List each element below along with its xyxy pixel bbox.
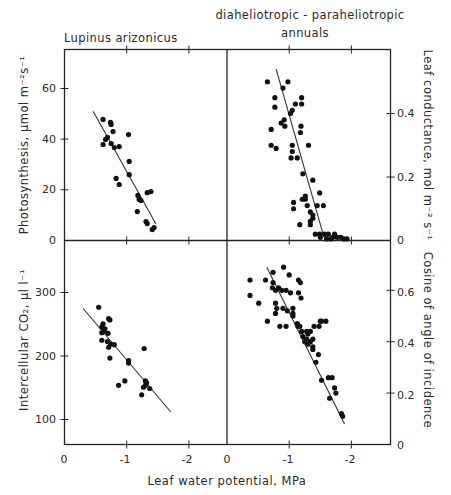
data-point (126, 361, 131, 366)
data-point (247, 293, 252, 298)
data-point (311, 324, 316, 329)
data-point (107, 355, 112, 360)
y-tick-br-0.4: 0.4 (397, 337, 415, 350)
data-point (141, 385, 146, 390)
y-tick-tl-0: 0 (49, 234, 56, 247)
data-point (148, 189, 153, 194)
x-tick-left-2: -2 (182, 453, 193, 466)
data-point (310, 178, 315, 183)
data-point (117, 182, 122, 187)
data-point (263, 277, 268, 282)
data-point (290, 313, 295, 318)
data-point (317, 190, 322, 195)
y-tick-br-0.2: 0.2 (397, 389, 415, 402)
data-point (310, 337, 315, 342)
data-point (107, 317, 112, 322)
data-point (340, 414, 345, 419)
y-tick-tr-0.2: 0.2 (397, 171, 415, 184)
data-point (265, 319, 270, 324)
data-point (282, 117, 287, 122)
data-point (272, 105, 277, 110)
data-point (127, 172, 132, 177)
data-point (274, 306, 279, 311)
data-point (298, 280, 303, 285)
data-point (112, 342, 117, 347)
data-point (316, 352, 321, 357)
data-point (281, 265, 286, 270)
data-point (290, 306, 295, 311)
panel-intercellular-co2 (83, 305, 171, 412)
x-tick-right-1: -1 (283, 453, 294, 466)
data-point (332, 385, 337, 390)
x-tick-labels: 0 -1 -2 0 -1 -2 (61, 453, 356, 466)
data-point (99, 338, 104, 343)
data-point (333, 391, 338, 396)
data-point (308, 222, 313, 227)
data-point (145, 221, 150, 226)
y-axis-label-cosine-incidence: Cosine of angle of incidence (421, 252, 435, 428)
data-point (283, 288, 288, 293)
data-point (297, 222, 302, 227)
data-point (300, 197, 305, 202)
data-point (114, 176, 119, 181)
data-point (328, 236, 333, 241)
data-point (99, 330, 104, 335)
y-tick-labels-right: 0 0.2 0.4 0 0.2 0.4 0.6 (397, 107, 415, 452)
data-point (300, 171, 305, 176)
data-point (256, 301, 261, 306)
data-point (326, 232, 331, 237)
x-tick-left-0: 0 (61, 453, 68, 466)
y-tick-labels-left: 0 20 40 60 100 200 300 (35, 82, 56, 426)
data-point (306, 143, 311, 148)
title-left: Lupinus arizonicus (64, 31, 178, 45)
data-point (273, 288, 278, 293)
data-point (270, 270, 275, 275)
y-tick-br-0: 0 (397, 439, 404, 452)
x-tick-right-2: -2 (345, 453, 356, 466)
data-point (100, 117, 105, 122)
data-point (265, 79, 270, 84)
data-point (287, 272, 292, 277)
data-point (274, 146, 279, 151)
data-point (280, 306, 285, 311)
data-point (127, 159, 132, 164)
figure: Lupinus arizonicus diaheliotropic - para… (0, 0, 451, 495)
data-point (285, 79, 290, 84)
data-point (269, 127, 274, 132)
data-point (288, 290, 293, 295)
data-point (288, 111, 293, 116)
data-point (96, 305, 101, 310)
y-tick-tr-0: 0 (397, 234, 404, 247)
data-point (318, 235, 323, 240)
y-axis-label-intercellular-co2: Intercellular CO₂, μl l⁻¹ (17, 269, 31, 411)
data-point (277, 324, 282, 329)
data-point (319, 378, 324, 383)
data-point (327, 396, 332, 401)
title-right-line1: diaheliotropic - paraheliotropic (215, 8, 404, 22)
data-point (100, 142, 105, 147)
y-tick-bl-300: 300 (35, 286, 56, 299)
y-tick-tl-40: 40 (42, 133, 56, 146)
data-point (110, 129, 115, 134)
y-tick-bl-200: 200 (35, 350, 56, 363)
data-point (116, 383, 121, 388)
data-point (273, 301, 278, 306)
data-point (117, 144, 122, 149)
data-point (285, 308, 290, 313)
data-point (298, 295, 303, 300)
data-point (321, 203, 326, 208)
y-axis-label-leaf-conductance: Leaf conductance, mol m⁻² s⁻¹ (421, 50, 435, 241)
data-point (147, 386, 152, 391)
x-axis-label: Leaf water potential, MPa (148, 474, 307, 488)
y-tick-tl-60: 60 (42, 82, 56, 95)
data-point (282, 124, 287, 129)
data-point (288, 155, 293, 160)
y-tick-bl-100: 100 (35, 413, 56, 426)
data-point (298, 130, 303, 135)
data-point (330, 375, 335, 380)
y-tick-tl-20: 20 (42, 183, 56, 196)
data-point (290, 143, 295, 148)
data-point (308, 329, 313, 334)
data-point (103, 137, 108, 142)
panel-photosynthesis (93, 111, 157, 232)
